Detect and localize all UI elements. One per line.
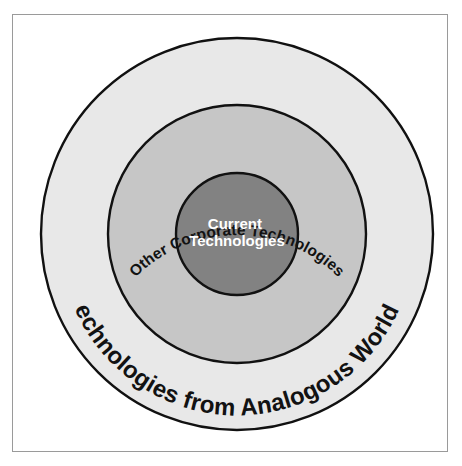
concentric-circles-diagram: Technologies from Analogous Worlds Other… — [0, 0, 462, 466]
inner-circle-label-line2: Technologies — [189, 232, 285, 249]
inner-circle-label-line1: Current — [208, 215, 262, 232]
figure-root: Technologies from Analogous Worlds Other… — [0, 0, 462, 466]
